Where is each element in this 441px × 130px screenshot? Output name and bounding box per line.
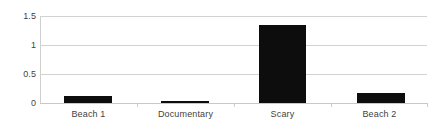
x-tick-separator-4 <box>427 103 428 107</box>
x-tick-separator-2 <box>234 103 235 107</box>
x-tick-separator-3 <box>331 103 332 107</box>
x-tick-label-scary: Scary <box>234 109 331 120</box>
x-axis-labels: Beach 1 Documentary Scary Beach 2 <box>40 109 427 123</box>
y-axis-labels: 1.5 1 0.5 0 <box>0 0 36 130</box>
x-tick-separator-1 <box>137 103 138 107</box>
y-tick-label-0-5: 0.5 <box>2 70 36 79</box>
y-tick-label-1: 1 <box>2 41 36 50</box>
bar-chart: 1.5 1 0.5 0 Beach 1 Documentary Scary Be… <box>0 0 441 130</box>
bar-scary <box>259 25 306 103</box>
x-tick-label-documentary: Documentary <box>137 109 234 120</box>
bar-beach-2 <box>357 93 405 103</box>
bars-layer <box>40 16 427 103</box>
plot-area <box>40 16 427 103</box>
y-tick-label-1-5: 1.5 <box>2 12 36 21</box>
bar-documentary <box>161 101 209 103</box>
bar-beach-1 <box>64 96 112 103</box>
y-tick-label-0: 0 <box>2 99 36 108</box>
x-tick-label-beach-2: Beach 2 <box>331 109 428 120</box>
x-tick-label-beach-1: Beach 1 <box>40 109 137 120</box>
